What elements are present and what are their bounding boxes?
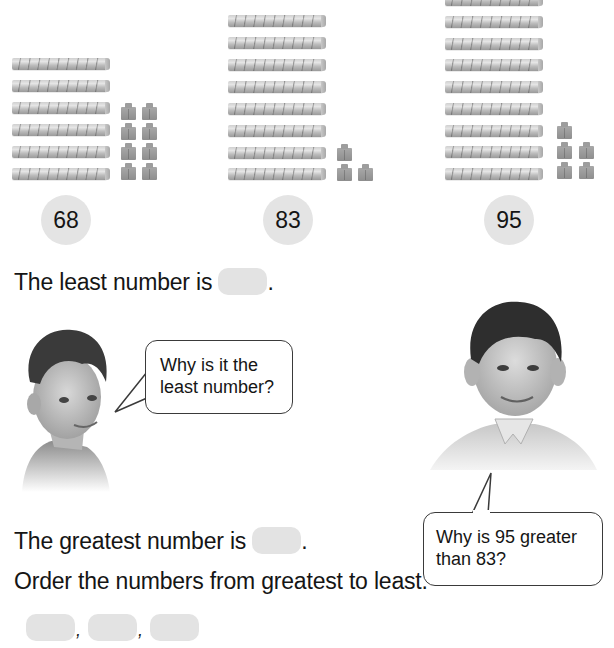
unit-cube [337, 168, 352, 181]
tens-rod [228, 15, 323, 27]
unit-cube [121, 107, 136, 120]
tens-rod [445, 59, 540, 71]
tens-rod [228, 81, 323, 93]
right-bubble-line-2: than 83? [436, 548, 577, 570]
unit-cube [142, 107, 157, 120]
unit-cube [358, 168, 373, 181]
least-number-prompt: The least number is [14, 269, 212, 295]
tens-rod [228, 59, 323, 71]
unit-cube [142, 167, 157, 180]
tens-rod [228, 168, 323, 180]
greatest-number-answer-blank[interactable] [252, 527, 301, 554]
tens-rod [12, 168, 107, 180]
left-bubble-line-1: Why is it the [160, 354, 274, 376]
tens-rod [228, 147, 323, 159]
unit-cube [557, 126, 572, 139]
tens-rod [12, 80, 107, 92]
tens-rod [445, 146, 540, 158]
boy-freckles-photo [12, 322, 112, 492]
unit-cube [579, 146, 594, 159]
unit-cube [121, 167, 136, 180]
least-number-answer-blank[interactable] [218, 268, 267, 295]
comma-separator: , [76, 620, 81, 641]
tens-rod [445, 38, 540, 50]
least-number-question: The least number is . [14, 268, 274, 296]
tens-rod [445, 16, 540, 28]
unit-cube [121, 127, 136, 140]
tens-rod [445, 0, 540, 6]
tens-rod [445, 103, 540, 115]
unit-cube [142, 147, 157, 160]
number-label-68: 68 [41, 195, 91, 245]
number-label-83: 83 [263, 195, 313, 245]
tens-rod [12, 58, 107, 70]
greatest-number-prompt: The greatest number is [14, 528, 246, 554]
unit-cube [557, 146, 572, 159]
tens-rod [228, 125, 323, 137]
greatest-number-question: The greatest number is . [14, 527, 308, 555]
unit-cube [557, 166, 572, 179]
unit-cube [121, 147, 136, 160]
tens-rod [445, 168, 540, 180]
tens-rod [228, 103, 323, 115]
tens-rod [12, 146, 107, 158]
period: . [301, 528, 307, 554]
left-bubble-line-2: least number? [160, 376, 274, 398]
tens-rod [445, 125, 540, 137]
right-speech-bubble: Why is 95 greater than 83? [423, 512, 603, 586]
comma-separator: , [138, 620, 143, 641]
right-bubble-line-1: Why is 95 greater [436, 526, 577, 548]
tens-rod [12, 102, 107, 114]
order-answer-blank-3[interactable] [150, 614, 199, 641]
order-answer-blank-1[interactable] [26, 614, 75, 641]
order-answer-blank-2[interactable] [88, 614, 137, 641]
tens-rod [445, 81, 540, 93]
right-bubble-tail-cover [471, 510, 493, 514]
unit-cube [337, 148, 352, 161]
tens-rod [12, 124, 107, 136]
tens-rod [228, 37, 323, 49]
number-label-95: 95 [484, 195, 534, 245]
order-instruction: Order the numbers from greatest to least… [14, 568, 428, 595]
period: . [267, 269, 273, 295]
boy-smiling-photo [425, 294, 601, 472]
unit-cube [579, 166, 594, 179]
left-speech-bubble: Why is it the least number? [145, 340, 293, 414]
unit-cube [142, 127, 157, 140]
